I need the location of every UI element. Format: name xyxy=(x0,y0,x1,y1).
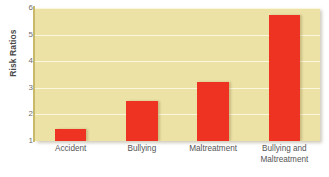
bar xyxy=(55,129,86,141)
y-axis-title: Risk Ratios xyxy=(8,18,18,88)
gridline xyxy=(35,8,320,9)
x-axis-label-line: Maltreatment xyxy=(178,144,249,155)
x-axis-label: Accident xyxy=(35,144,106,155)
y-tick-label: 2 xyxy=(20,110,33,118)
plot-area xyxy=(35,8,320,141)
y-tick-label: 6 xyxy=(20,4,33,12)
y-tick-label: 5 xyxy=(20,31,33,39)
bar xyxy=(269,15,300,141)
x-axis-label: Bullying xyxy=(106,144,177,155)
y-tick-label: 4 xyxy=(20,57,33,65)
x-axis-label-line: Bullying and xyxy=(249,144,320,155)
y-tick-label: 1 xyxy=(20,137,33,145)
x-axis-label-line: Accident xyxy=(35,144,106,155)
y-tick-label: 3 xyxy=(20,84,33,92)
y-axis-line xyxy=(33,6,35,142)
x-axis-label-line: Bullying xyxy=(106,144,177,155)
bar-chart: Risk Ratios 123456 AccidentBullyingMaltr… xyxy=(0,0,329,177)
x-axis-category-labels: AccidentBullyingMaltreatmentBullying and… xyxy=(35,144,320,177)
x-axis-label: Maltreatment xyxy=(178,144,249,155)
y-axis-tick-labels: 123456 xyxy=(20,8,33,141)
x-axis-label: Bullying andMaltreatment xyxy=(249,144,320,165)
bar xyxy=(126,101,157,141)
bar xyxy=(197,82,228,141)
x-axis-label-line: Maltreatment xyxy=(249,155,320,166)
plot-inner xyxy=(35,8,320,141)
